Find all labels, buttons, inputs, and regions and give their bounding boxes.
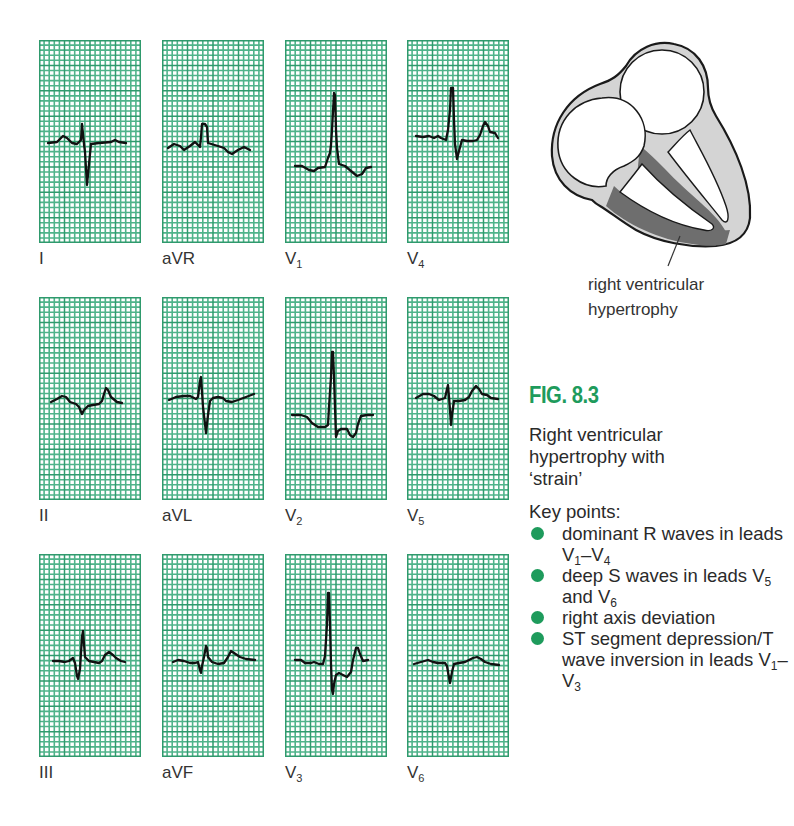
description-line: hypertrophy with — [529, 446, 665, 468]
lead-label-V3: V3 — [285, 764, 302, 784]
ecg-grid — [39, 554, 141, 757]
key-point: right axis deviation — [529, 607, 794, 628]
ecg-panel-V1 — [285, 40, 387, 243]
ecg-grid — [407, 554, 509, 757]
lead-label-V4: V4 — [407, 250, 424, 270]
key-points-title: Key points: — [529, 501, 621, 523]
lead-label-V5: V5 — [407, 507, 424, 527]
ecg-grid — [39, 40, 141, 243]
ecg-panel-aVR — [162, 40, 264, 243]
key-point: dominant R waves in leads V1–V4 — [529, 523, 794, 565]
lead-label-II: II — [39, 507, 48, 527]
ecg-panel-aVF — [162, 554, 264, 757]
ecg-grid — [162, 40, 264, 243]
caption-line-2: hypertrophy — [588, 297, 704, 322]
ecg-grid — [162, 554, 264, 757]
ecg-panel-V4 — [407, 40, 509, 243]
ecg-panel-V3 — [285, 554, 387, 757]
ecg-grid — [162, 297, 264, 500]
lead-label-aVL: aVL — [162, 507, 192, 527]
heart-cross-section-icon — [540, 36, 770, 276]
lead-label-V2: V2 — [285, 507, 302, 527]
figure-title: FIG. 8.3 — [529, 382, 599, 409]
description-line: ‘strain’ — [529, 468, 665, 490]
ecg-grid — [407, 40, 509, 243]
lead-label-aVR: aVR — [162, 250, 195, 270]
key-point: ST segment depression/T wave inversion i… — [529, 628, 794, 691]
ecg-grid — [285, 297, 387, 500]
ecg-panel-aVL — [162, 297, 264, 500]
lead-label-V1: V1 — [285, 250, 302, 270]
ecg-grid — [285, 554, 387, 757]
ecg-panel-I — [39, 40, 141, 243]
ecg-panel-V6 — [407, 554, 509, 757]
ecg-panel-V2 — [285, 297, 387, 500]
lead-label-V6: V6 — [407, 764, 424, 784]
lead-label-aVF: aVF — [162, 764, 193, 784]
bullet-icon — [531, 569, 544, 582]
lead-label-I: I — [39, 250, 44, 270]
ecg-panel-II — [39, 297, 141, 500]
ecg-panel-III — [39, 554, 141, 757]
description-line: Right ventricular — [529, 424, 665, 446]
figure-description: Right ventricular hypertrophy with ‘stra… — [529, 424, 665, 490]
heart-diagram — [540, 36, 770, 280]
key-point: deep S waves in leads V5 and V6 — [529, 565, 794, 607]
bullet-icon — [531, 632, 544, 645]
ecg-panel-V5 — [407, 297, 509, 500]
ecg-grid — [39, 297, 141, 500]
bullet-icon — [531, 527, 544, 540]
key-points-list: dominant R waves in leads V1–V4 deep S w… — [529, 523, 794, 691]
lead-label-III: III — [39, 764, 53, 784]
ecg-grid — [285, 40, 387, 243]
bullet-icon — [531, 611, 544, 624]
caption-line-1: right ventricular — [588, 272, 704, 297]
heart-caption: right ventricular hypertrophy — [588, 272, 704, 322]
ecg-grid — [407, 297, 509, 500]
